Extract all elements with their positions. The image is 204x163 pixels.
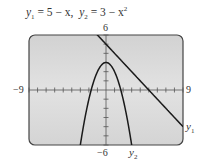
- curve-label-y1: y1: [186, 120, 194, 135]
- ymax-label: 6: [103, 22, 108, 33]
- graph-screen: [0, 0, 204, 163]
- curve-label-y2: y2: [129, 146, 137, 161]
- xmax-label: 9: [186, 84, 191, 95]
- xmin-label: −9: [13, 84, 24, 95]
- ymin-label: −6: [97, 147, 108, 158]
